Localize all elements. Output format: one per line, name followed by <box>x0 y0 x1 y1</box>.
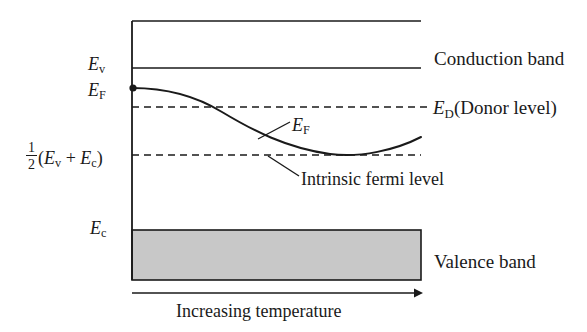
ef-symbol: E <box>88 80 99 100</box>
donor-symbol: E <box>433 97 445 118</box>
donor-level-label: ED(Donor level) <box>433 98 557 121</box>
one-half-fraction: 12 <box>26 140 37 171</box>
conduction-band-label: Conduction band <box>434 49 564 68</box>
fraction-numerator: 1 <box>26 140 37 156</box>
intrinsic-fermi-level-annotation: Intrinsic fermi level <box>301 170 444 188</box>
ec-symbol: E <box>90 218 101 238</box>
x-axis-caption: Increasing temperature <box>176 302 341 320</box>
fraction-denominator: 2 <box>26 156 37 171</box>
fermi-curve-start-dot <box>129 84 136 91</box>
ec-subscript: c <box>101 226 106 240</box>
fermi-level-diagram: Ev EF 12(Ev + Ec) Ec Conduction band ED(… <box>0 0 587 332</box>
fermi-curve-symbol: E <box>292 115 303 135</box>
axis-label-midgap: 12(Ev + Ec) <box>26 140 103 171</box>
fermi-level-curve <box>132 88 421 155</box>
fermi-curve-subscript: F <box>303 123 310 137</box>
midgap-term1-symbol: E <box>44 148 55 168</box>
midgap-plus: + <box>66 148 76 168</box>
donor-level-text: (Donor level) <box>454 97 557 118</box>
ev-symbol: E <box>88 54 99 74</box>
ef-subscript: F <box>99 88 106 102</box>
valence-band-label: Valence band <box>434 252 536 271</box>
temperature-arrow-head <box>414 289 423 298</box>
fermi-curve-annotation: EF <box>292 116 310 137</box>
donor-subscript: D <box>445 106 454 121</box>
valence-band-region <box>132 230 421 280</box>
intrinsic-leader-line <box>268 156 299 176</box>
midgap-term2-symbol: E <box>80 148 91 168</box>
midgap-close-paren: ) <box>97 148 103 168</box>
ev-subscript: v <box>99 62 105 76</box>
axis-label-ef: EF <box>88 81 106 102</box>
ef-leader-line <box>258 122 290 139</box>
axis-label-ec: Ec <box>90 219 106 240</box>
axis-label-ev: Ev <box>88 55 105 76</box>
